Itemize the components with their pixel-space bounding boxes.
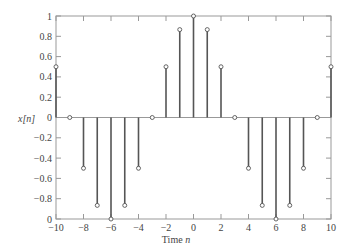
- x-tick-label: 0: [191, 222, 196, 233]
- stem-marker: [68, 116, 72, 120]
- y-tick-label: 0.2: [40, 92, 53, 103]
- stem-marker: [178, 28, 182, 32]
- stem-marker: [233, 116, 237, 120]
- stem-marker: [329, 65, 333, 69]
- y-tick-label: 0: [47, 214, 52, 225]
- x-tick-label: 10: [326, 222, 336, 233]
- stem-marker: [302, 166, 306, 170]
- stem-marker: [95, 203, 99, 207]
- x-tick-label: −4: [133, 222, 144, 233]
- y-tick-label: 1: [47, 11, 52, 22]
- y-tick-label: 0.6: [40, 51, 53, 62]
- stem-marker: [260, 203, 264, 207]
- stem-marker: [150, 116, 154, 120]
- y-tick-label: −0.2: [34, 132, 52, 143]
- stem-marker: [109, 217, 113, 221]
- y-tick-label: −0.8: [34, 193, 52, 204]
- x-axis-label-var: n: [185, 234, 190, 245]
- stem-marker: [205, 28, 209, 32]
- stem-marker: [219, 65, 223, 69]
- x-axis-label: Time n: [162, 234, 190, 245]
- stem-marker: [247, 166, 251, 170]
- stem-marker: [123, 203, 127, 207]
- x-tick-label: 8: [301, 222, 306, 233]
- x-axis-label-text: Time: [162, 234, 185, 245]
- stem-marker: [54, 65, 58, 69]
- y-tick-label: −0.6: [34, 173, 52, 184]
- stem-marker: [82, 166, 86, 170]
- stem-marker: [192, 14, 196, 18]
- stem-marker: [137, 166, 141, 170]
- x-tick-label: 4: [246, 222, 251, 233]
- y-tick-label: −0.4: [34, 153, 52, 164]
- stem-marker: [288, 203, 292, 207]
- x-tick-label: −2: [161, 222, 172, 233]
- stem-marker: [315, 116, 319, 120]
- x-tick-label: 2: [219, 222, 224, 233]
- stem-marker: [164, 65, 168, 69]
- x-axis-ticks: −10−8−6−4−20246810: [48, 16, 336, 233]
- y-tick-label: 0: [47, 112, 52, 123]
- stem-marker: [274, 217, 278, 221]
- x-tick-label: −6: [106, 222, 117, 233]
- y-tick-label: 0.8: [40, 31, 53, 42]
- stem-plot: −10−8−6−4−20246810 10.80.60.40.20−0.2−0.…: [0, 0, 345, 251]
- y-axis-label: x[n]: [17, 113, 35, 124]
- y-tick-label: 0.4: [40, 71, 53, 82]
- x-tick-label: 6: [274, 222, 279, 233]
- x-tick-label: −8: [78, 222, 89, 233]
